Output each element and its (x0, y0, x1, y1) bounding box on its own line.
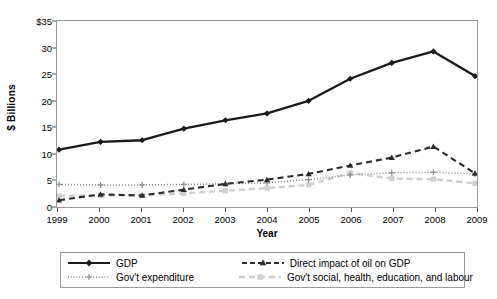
x-tick-mark (267, 208, 268, 212)
y-tick-label: 20 (20, 95, 52, 106)
y-tick-label: 5 (20, 175, 52, 186)
series-2 (57, 144, 477, 203)
legend-label-oil: Direct impact of oil on GDP (290, 258, 411, 269)
x-tick-label: 2000 (88, 214, 109, 225)
x-tick-mark (141, 208, 142, 212)
y-tick-label: $35 (20, 16, 52, 27)
data-point (98, 139, 104, 145)
x-tick-mark (99, 208, 100, 212)
x-tick-label: 2001 (130, 214, 151, 225)
legend-item-social[interactable]: Gov't social, health, education, and lab… (238, 271, 458, 283)
chart-figure: $ Billions 051015202530$35 1999200020012… (0, 0, 497, 299)
x-tick-mark (477, 208, 478, 212)
x-tick-label: 2007 (382, 214, 403, 225)
data-point (389, 60, 395, 66)
x-tick-mark (225, 208, 226, 212)
data-point (139, 137, 145, 143)
legend-label-expenditure: Gov't expenditure (116, 272, 194, 283)
data-point (264, 110, 270, 116)
data-point (57, 147, 62, 153)
x-tick-mark (309, 208, 310, 212)
plot-area (56, 20, 478, 208)
x-tick-mark (57, 208, 58, 212)
legend-swatch-social (238, 271, 282, 283)
legend-label-gdp: GDP (116, 258, 138, 269)
legend-swatch-expenditure (67, 271, 111, 283)
x-tick-mark (183, 208, 184, 212)
legend-row: GDP Direct impact of oil on GDP (67, 256, 458, 270)
data-point (430, 169, 436, 175)
x-tick-label: 2006 (340, 214, 361, 225)
x-tick-mark (435, 208, 436, 212)
data-point (181, 126, 187, 132)
data-point (57, 181, 62, 187)
x-tick-label: 1999 (46, 214, 67, 225)
x-tick-label: 2009 (466, 214, 487, 225)
series-canvas (57, 21, 477, 207)
legend-swatch-oil (241, 257, 285, 269)
legend-item-expenditure[interactable]: Gov't expenditure (67, 271, 238, 283)
data-point (98, 182, 104, 188)
y-tick-label: 30 (20, 42, 52, 53)
series-line (59, 51, 475, 149)
legend-item-gdp[interactable]: GDP (67, 257, 241, 269)
y-tick-label: 15 (20, 122, 52, 133)
x-axis-title: Year (56, 228, 478, 239)
legend-item-oil[interactable]: Direct impact of oil on GDP (241, 257, 458, 269)
data-point (223, 188, 228, 193)
y-tick-label: 10 (20, 148, 52, 159)
data-point (222, 117, 228, 123)
x-tick-label: 2004 (256, 214, 277, 225)
data-point (472, 181, 477, 186)
series-1 (57, 48, 477, 153)
legend-swatch-gdp (67, 257, 111, 269)
data-point (264, 185, 269, 190)
data-point (306, 177, 312, 183)
x-tick-label: 2003 (214, 214, 235, 225)
x-tick-label: 2005 (298, 214, 319, 225)
x-tick-mark (393, 208, 394, 212)
x-tick-label: 2008 (424, 214, 445, 225)
x-tick-label: 2002 (172, 214, 193, 225)
data-point (181, 181, 187, 187)
data-point (139, 182, 145, 188)
data-point (306, 182, 311, 187)
series-line (59, 147, 475, 201)
data-point (389, 170, 395, 176)
data-point (389, 176, 394, 181)
legend-label-social: Gov't social, health, education, and lab… (287, 272, 473, 283)
y-axis-ticks: 051015202530$35 (14, 0, 52, 230)
y-tick-label: 0 (20, 202, 52, 213)
legend-row: Gov't expenditure Gov't social, health, … (67, 270, 458, 284)
x-tick-mark (351, 208, 352, 212)
chart-legend: GDP Direct impact of oil on GDP Gov't ex… (60, 252, 465, 288)
y-tick-label: 25 (20, 69, 52, 80)
data-point (431, 177, 436, 182)
data-point (430, 144, 436, 149)
x-axis-ticks: 1999200020012002200320042005200620072008… (56, 208, 478, 228)
